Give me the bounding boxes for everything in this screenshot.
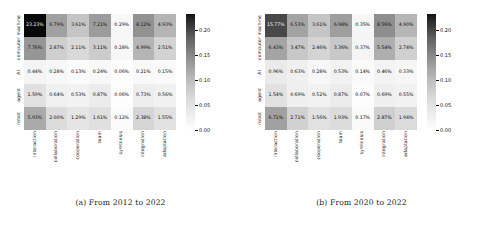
colorbar-tick-text: 0.20 — [440, 27, 451, 33]
colorbar — [427, 14, 436, 130]
x-axis-tick-text: interaction — [33, 131, 38, 157]
heatmap-row: 6.43%3.47%2.46%3.36%0.37%5.54%2.74% — [265, 37, 417, 60]
heatmap-cell: 8.56% — [374, 14, 396, 37]
colorbar-tick-label: 0.20 — [195, 27, 210, 33]
heatmap-cell: 15.77% — [265, 14, 287, 37]
x-axis-tick-label: integration — [133, 131, 155, 183]
colorbar-tick-label: 0.15 — [195, 52, 210, 58]
x-axis-tick-text: collaboration — [54, 131, 59, 162]
y-axis-tick-text: agent — [17, 88, 22, 102]
heatmap-row: 1.54%0.69%0.52%0.87%0.07%0.69%0.55% — [265, 84, 417, 107]
colorbar-tick-mark — [195, 105, 198, 106]
heatmap-cell: 0.17% — [352, 107, 374, 130]
colorbar-tick-mark — [436, 80, 439, 81]
x-axis-tick-text: adaptation — [404, 131, 409, 157]
heatmap-cell: 0.06% — [111, 84, 133, 107]
heatmap-cell: 1.55% — [154, 107, 176, 130]
x-axis-tick-label: integration — [374, 131, 396, 183]
heatmap-row: 1.59%0.64%0.53%0.87%0.06%0.73%0.56% — [24, 84, 176, 107]
subfigure-a: machinecomputerAIagentrobot23.23%6.79%3.… — [0, 0, 241, 234]
colorbar-ticks: 0.200.150.100.050.00 — [436, 14, 476, 130]
y-axis-tick-label: machine — [241, 14, 265, 37]
heatmap-cell: 0.21% — [133, 60, 155, 83]
heatmap-cell: 1.29% — [67, 107, 89, 130]
x-axis-tick-label: collaboration — [287, 131, 309, 183]
heatmap-cell: 5.54% — [374, 37, 396, 60]
heatmap-cell: 2.11% — [67, 37, 89, 60]
heatmap-cell: 0.46% — [374, 60, 396, 83]
x-axis-tick-text: integration — [141, 131, 146, 157]
heatmap-cell: 0.44% — [24, 60, 46, 83]
heatmap-cell: 0.06% — [111, 60, 133, 83]
heatmap-cell: 0.52% — [308, 84, 330, 107]
heatmap-cell: 0.07% — [352, 84, 374, 107]
heatmap-cell: 3.61% — [308, 14, 330, 37]
colorbar-tick-label: 0.15 — [436, 52, 451, 58]
x-axis-tick-text: cooperation — [76, 131, 81, 160]
heatmap-cell: 0.12% — [111, 107, 133, 130]
colorbar-tick-text: 0.05 — [440, 102, 451, 108]
x-axis-tick-text: collaboration — [295, 131, 300, 162]
heatmap-cell: 0.63% — [287, 60, 309, 83]
x-axis-tick-text: cooperation — [317, 131, 322, 160]
heatmap-cell: 3.47% — [287, 37, 309, 60]
heatmap-cell: 2.00% — [46, 107, 68, 130]
y-axis-tick-label: AI — [0, 60, 24, 83]
heatmap-cell: 1.59% — [24, 84, 46, 107]
subfigure-caption: (b) From 2020 to 2022 — [241, 198, 482, 207]
heatmap-cell: 4.99% — [133, 37, 155, 60]
y-axis-tick-label: robot — [0, 107, 24, 130]
heatmap-cell: 0.53% — [330, 60, 352, 83]
y-axis-tick-text: AI — [258, 70, 263, 75]
heatmap-cell: 0.15% — [154, 60, 176, 83]
y-axis-tick-text: computer — [17, 37, 22, 60]
heatmap-cell: 0.37% — [352, 37, 374, 60]
heatmap-cell: 0.69% — [374, 84, 396, 107]
y-axis-tick-text: machine — [258, 15, 263, 35]
x-axis-tick-label: symbiosis — [111, 131, 133, 183]
subfigure-caption: (a) From 2012 to 2022 — [0, 198, 241, 207]
x-axis-tick-label: interaction — [24, 131, 46, 183]
heatmap-cell: 5.93% — [24, 107, 46, 130]
heatmap-cell: 7.21% — [89, 14, 111, 37]
heatmap-cell: 6.98% — [330, 14, 352, 37]
colorbar — [186, 14, 195, 130]
heatmap-figure: machinecomputerAIagentrobot23.23%6.79%3.… — [0, 0, 483, 234]
heatmap-cell: 2.38% — [133, 107, 155, 130]
heatmap-cell: 7.76% — [24, 37, 46, 60]
y-axis-labels: machinecomputerAIagentrobot — [0, 14, 24, 130]
x-axis-tick-label: team — [89, 131, 111, 183]
heatmap-row: 0.44%0.28%0.13%0.24%0.06%0.21%0.15% — [24, 60, 176, 83]
heatmap-cell: 4.90% — [395, 14, 417, 37]
heatmap-cell: 23.23% — [24, 14, 46, 37]
heatmap-cell: 0.69% — [287, 84, 309, 107]
heatmap-cell: 0.56% — [154, 84, 176, 107]
heatmap-cell: 0.28% — [46, 60, 68, 83]
colorbar-tick-mark — [436, 30, 439, 31]
heatmap-cell: 6.71% — [265, 107, 287, 130]
x-axis-tick-text: adaptation — [163, 131, 168, 157]
x-axis-tick-label: adaptation — [395, 131, 417, 183]
heatmap-cell: 8.12% — [133, 14, 155, 37]
colorbar-tick-mark — [195, 80, 198, 81]
y-axis-tick-label: agent — [0, 84, 24, 107]
heatmap-row: 23.23%6.79%3.61%7.21%0.29%8.12%4.93% — [24, 14, 176, 37]
colorbar-tick-text: 0.15 — [199, 52, 210, 58]
heatmap-cell: 0.55% — [395, 84, 417, 107]
heatmap-cell: 0.87% — [330, 84, 352, 107]
y-axis-tick-label: computer — [241, 37, 265, 60]
heatmap-cell: 0.29% — [111, 14, 133, 37]
heatmap-panel: machinecomputerAIagentrobot23.23%6.79%3.… — [0, 0, 241, 200]
heatmap-grid: 15.77%6.53%3.61%6.98%0.35%8.56%4.90%6.43… — [265, 14, 417, 130]
y-axis-tick-text: robot — [258, 112, 263, 125]
x-axis-tick-text: team — [339, 131, 344, 143]
heatmap-cell: 0.35% — [352, 14, 374, 37]
heatmap-cell: 2.71% — [287, 107, 309, 130]
x-axis-tick-text: symbiosis — [119, 131, 124, 155]
colorbar-tick-label: 0.00 — [436, 127, 451, 133]
heatmap-cell: 6.43% — [265, 37, 287, 60]
heatmap-row: 6.71%2.71%1.56%1.93%0.17%2.87%1.94% — [265, 107, 417, 130]
heatmap-cell: 2.74% — [395, 37, 417, 60]
subfigure-b: machinecomputerAIagentrobot15.77%6.53%3.… — [241, 0, 482, 234]
heatmap-cell: 1.54% — [265, 84, 287, 107]
